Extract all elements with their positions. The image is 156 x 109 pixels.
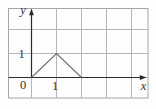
x-tick-label-1: 1 bbox=[52, 79, 58, 93]
origin-label: 0 bbox=[20, 78, 26, 92]
y-axis-label: y bbox=[18, 3, 26, 17]
y-tick-label-1: 1 bbox=[18, 47, 24, 61]
plot-canvas: y x 0 1 1 bbox=[0, 0, 156, 109]
x-axis-label: x bbox=[140, 79, 147, 93]
math-figure: y x 0 1 1 bbox=[0, 0, 156, 109]
